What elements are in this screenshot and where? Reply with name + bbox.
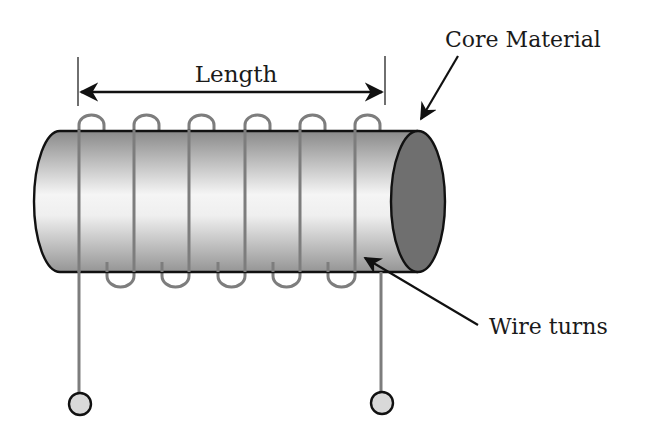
right-terminal xyxy=(371,392,393,414)
core-body xyxy=(34,131,418,272)
core-cylinder xyxy=(34,131,445,272)
wire-leads xyxy=(79,270,381,393)
left-terminal xyxy=(69,393,91,415)
wire-turns-label: Wire turns xyxy=(489,314,608,339)
wire-top-loops xyxy=(79,115,380,132)
core-material-arrow xyxy=(421,56,458,119)
length-dimension: Length xyxy=(78,56,385,106)
length-label: Length xyxy=(195,61,278,87)
core-material-callout: Core Material xyxy=(421,27,601,119)
core-end-face xyxy=(391,131,445,272)
core-material-label: Core Material xyxy=(445,27,601,52)
inductor-diagram: Length xyxy=(0,0,646,444)
